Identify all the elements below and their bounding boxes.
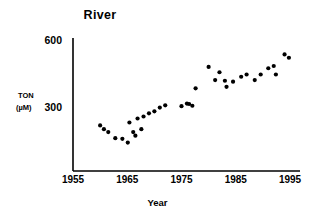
data-point — [120, 137, 124, 141]
data-point — [266, 66, 270, 70]
data-point — [98, 123, 102, 127]
x-tick-label-1995: 1995 — [270, 175, 310, 185]
y-tick-label-600: 600 — [28, 35, 62, 46]
data-point — [113, 136, 117, 140]
data-point — [152, 109, 156, 113]
data-point — [135, 116, 139, 120]
x-tick-label-1965: 1965 — [107, 175, 147, 185]
y-axis-title-line1: TON — [0, 92, 48, 100]
data-point — [274, 72, 278, 76]
y-axis-title-line2: (µM) — [0, 104, 46, 112]
data-point — [179, 104, 183, 108]
data-point — [126, 141, 130, 145]
data-point — [163, 103, 167, 107]
x-tick-label-1985: 1985 — [216, 175, 256, 185]
chart-title: River — [0, 9, 200, 22]
data-point — [213, 78, 217, 82]
data-point — [239, 75, 243, 79]
data-point — [207, 65, 211, 69]
data-point-group — [98, 52, 291, 144]
data-point — [141, 114, 145, 118]
x-tick-label-1955: 1955 — [53, 175, 93, 185]
data-point — [259, 72, 263, 76]
data-point — [147, 111, 151, 115]
chart-figure: River 600 300 TON (µM) 19551965197519851… — [0, 0, 315, 224]
data-point — [253, 78, 257, 82]
data-point — [217, 70, 221, 74]
data-point — [287, 56, 291, 60]
data-point — [131, 130, 135, 134]
data-point — [272, 64, 276, 68]
data-point — [245, 72, 249, 76]
data-point — [194, 86, 198, 90]
data-point — [223, 79, 227, 83]
data-point — [127, 120, 131, 124]
data-point — [139, 127, 143, 131]
data-point — [102, 127, 106, 131]
data-point — [231, 80, 235, 84]
data-point — [224, 85, 228, 89]
data-point — [282, 52, 286, 56]
data-point — [133, 134, 137, 138]
x-tick-label-1975: 1975 — [162, 175, 202, 185]
data-point — [190, 104, 194, 108]
data-point — [158, 105, 162, 109]
x-axis-title: Year — [0, 198, 315, 208]
data-point — [106, 130, 110, 134]
